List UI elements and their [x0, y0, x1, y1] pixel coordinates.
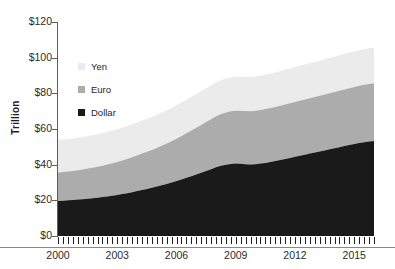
x-axis-minor-tick	[68, 237, 69, 244]
x-axis-minor-tick	[152, 237, 153, 244]
x-axis-minor-tick	[88, 237, 89, 244]
x-axis-minor-tick	[216, 237, 217, 244]
x-axis-minor-tick	[102, 237, 103, 244]
y-axis-tick-mark	[52, 200, 57, 201]
x-axis-minor-tick	[93, 237, 94, 244]
x-axis-minor-tick	[221, 237, 222, 244]
x-axis-minor-tick	[191, 237, 192, 244]
y-axis-tick-mark	[52, 236, 57, 237]
y-axis-tick-label: $120	[16, 15, 52, 27]
x-axis-minor-tick	[181, 237, 182, 244]
x-axis-minor-tick	[310, 237, 311, 244]
y-axis-tick-label: $80	[16, 86, 52, 98]
x-axis-minor-tick	[142, 237, 143, 244]
x-axis-minor-tick	[241, 237, 242, 244]
x-axis-minor-tick	[231, 237, 232, 244]
x-axis-minor-tick	[226, 237, 227, 244]
legend-swatch-icon	[78, 109, 85, 116]
x-axis-minor-tick	[349, 237, 350, 244]
x-axis-tick-label: 2012	[265, 249, 325, 261]
x-axis-minor-tick	[335, 237, 336, 244]
x-axis-minor-tick	[236, 237, 237, 244]
y-axis-tick-mark	[52, 58, 57, 59]
x-axis-minor-tick	[186, 237, 187, 244]
x-axis-minor-tick	[369, 237, 370, 244]
x-axis-minor-tick	[147, 237, 148, 244]
x-axis-minor-tick	[265, 237, 266, 244]
x-axis-minor-tick	[83, 237, 84, 244]
y-axis-tick-mark	[52, 129, 57, 130]
y-axis-tick-mark	[52, 22, 57, 23]
stacked-area-chart: Trillion $0$20$40$60$80$100$120 20002003…	[0, 0, 395, 269]
x-axis-minor-tick	[167, 237, 168, 244]
y-axis-tick-label: $20	[16, 193, 52, 205]
x-axis-minor-tick	[251, 237, 252, 244]
x-axis-minor-tick	[246, 237, 247, 244]
x-axis-minor-tick	[98, 237, 99, 244]
chart-legend: YenEuroDollar	[78, 55, 168, 124]
x-axis-minor-tick	[285, 237, 286, 244]
x-axis-minor-tick	[201, 237, 202, 244]
legend-label: Euro	[91, 84, 111, 95]
x-axis-tick-label: 2009	[206, 249, 266, 261]
x-axis-minor-tick	[344, 237, 345, 244]
legend-swatch-icon	[78, 63, 85, 70]
x-axis-minor-tick	[132, 237, 133, 244]
x-axis-minor-tick	[315, 237, 316, 244]
x-axis-minor-tick	[290, 237, 291, 244]
x-axis-minor-tick	[280, 237, 281, 244]
x-axis-minor-tick	[137, 237, 138, 244]
legend-label: Yen	[91, 61, 107, 72]
x-axis-tick-label: 2000	[28, 249, 88, 261]
y-axis-tick-label: $0	[16, 229, 52, 241]
x-axis-tick-label: 2006	[147, 249, 207, 261]
x-axis-minor-tick	[325, 237, 326, 244]
x-axis-minor-tick	[107, 237, 108, 244]
x-axis-minor-tick	[162, 237, 163, 244]
x-axis-minor-tick	[270, 237, 271, 244]
y-axis-tick-mark	[52, 165, 57, 166]
legend-item[interactable]: Euro	[78, 78, 168, 101]
legend-item[interactable]: Yen	[78, 55, 168, 78]
x-axis-minor-tick	[157, 237, 158, 244]
x-axis-minor-tick	[295, 237, 296, 244]
x-axis-minor-tick	[320, 237, 321, 244]
x-axis-tick-label: 2015	[324, 249, 384, 261]
x-axis-minor-tick	[260, 237, 261, 244]
x-axis-minor-tick	[359, 237, 360, 244]
y-axis-tick-labels: $0$20$40$60$80$100$120	[14, 0, 52, 269]
x-axis-minor-tick	[73, 237, 74, 244]
x-axis-minor-tick	[305, 237, 306, 244]
x-axis-minor-ticks	[58, 237, 374, 245]
x-axis-minor-tick	[58, 237, 59, 244]
x-axis-minor-tick	[364, 237, 365, 244]
y-axis-tick-label: $60	[16, 122, 52, 134]
x-axis-minor-tick	[256, 237, 257, 244]
x-axis-minor-tick	[63, 237, 64, 244]
x-axis-minor-tick	[275, 237, 276, 244]
x-axis-minor-tick	[339, 237, 340, 244]
x-axis-minor-tick	[211, 237, 212, 244]
legend-item[interactable]: Dollar	[78, 101, 168, 124]
y-axis-tick-label: $40	[16, 158, 52, 170]
x-axis-minor-tick	[122, 237, 123, 244]
x-axis-minor-tick	[78, 237, 79, 244]
x-axis-minor-tick	[206, 237, 207, 244]
legend-label: Dollar	[91, 107, 116, 118]
x-axis-minor-tick	[112, 237, 113, 244]
x-axis-minor-tick	[330, 237, 331, 244]
x-axis-minor-tick	[127, 237, 128, 244]
legend-swatch-icon	[78, 86, 85, 93]
x-axis-minor-tick	[374, 237, 375, 244]
baseline-rule	[0, 247, 395, 248]
x-axis-minor-tick	[300, 237, 301, 244]
x-axis-minor-tick	[172, 237, 173, 244]
y-axis-tick-mark	[52, 93, 57, 94]
x-axis-minor-tick	[354, 237, 355, 244]
x-axis-minor-tick	[177, 237, 178, 244]
x-axis-tick-label: 2003	[87, 249, 147, 261]
x-axis-minor-tick	[196, 237, 197, 244]
y-axis-tick-label: $100	[16, 51, 52, 63]
x-axis-minor-tick	[117, 237, 118, 244]
